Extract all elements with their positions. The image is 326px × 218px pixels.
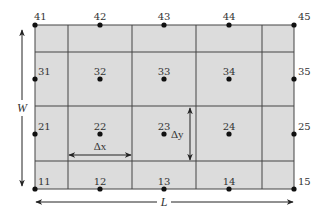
node-dot [161, 22, 166, 27]
node-label: 33 [158, 66, 171, 77]
node-label: 11 [38, 176, 51, 187]
node-dot [226, 76, 231, 81]
node-dot [97, 131, 102, 136]
node-dot [32, 76, 37, 81]
node-label: 43 [158, 11, 171, 22]
width-label: W [17, 101, 28, 115]
node-label: 23 [158, 121, 171, 132]
width-dimension: W [17, 30, 28, 186]
domain-region [35, 25, 294, 189]
node-label: 12 [94, 176, 107, 187]
node-dot [97, 186, 102, 191]
node-label: 15 [298, 176, 311, 187]
node-label: 25 [298, 121, 311, 132]
node-dot [291, 131, 296, 136]
node-dot [291, 186, 296, 191]
node-label: 22 [94, 121, 107, 132]
length-label: L [160, 195, 168, 209]
node-label: 31 [38, 66, 51, 77]
node-dot [226, 22, 231, 27]
node-label: 42 [94, 11, 107, 22]
node-label: 32 [94, 66, 107, 77]
node-label: 41 [34, 11, 47, 22]
node-45: 45 [291, 11, 310, 28]
node-label: 21 [38, 121, 51, 132]
node-dot [226, 131, 231, 136]
length-dimension: L [36, 195, 293, 209]
node-label: 45 [298, 11, 311, 22]
grid-diagram: 4142434445313233343521222324251112131415… [0, 0, 326, 218]
node-label: 35 [298, 66, 311, 77]
node-label: 14 [223, 176, 236, 187]
node-dot [161, 131, 166, 136]
node-label: 24 [223, 121, 236, 132]
dx-label: Δx [94, 140, 107, 152]
node-label: 34 [223, 66, 236, 77]
node-dot [161, 76, 166, 81]
node-dot [161, 186, 166, 191]
node-dot [32, 186, 37, 191]
dy-label: Δy [171, 128, 184, 140]
node-label: 44 [223, 11, 236, 22]
node-dot [97, 22, 102, 27]
node-dot [291, 76, 296, 81]
node-dot [226, 186, 231, 191]
node-dot [291, 22, 296, 27]
node-dot [32, 22, 37, 27]
node-dot [97, 76, 102, 81]
node-dot [32, 131, 37, 136]
node-label: 13 [158, 176, 171, 187]
